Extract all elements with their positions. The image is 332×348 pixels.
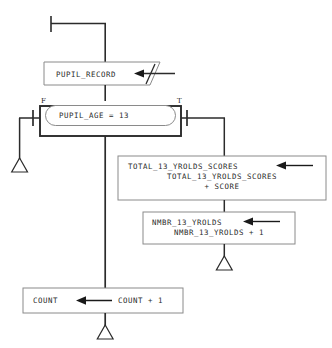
read-pupil-record-label: PUPIL_RECORD	[56, 70, 116, 80]
total-13-yrolds-scores-line-2: TOTAL_13_YROLDS_SCORES	[118, 172, 326, 182]
nmbr-13-yrolds-line-2: NMBR_13_YROLDS + 1	[143, 228, 295, 238]
terminator-true-branch	[216, 256, 232, 270]
decision-pupil-age-label: PUPIL_AGE = 13	[59, 111, 129, 121]
terminator-main-exit	[97, 325, 113, 339]
branch-label-true: T	[177, 97, 182, 105]
total-13-yrolds-scores-line-1: TOTAL_13_YROLDS_SCORES	[128, 162, 238, 172]
edge-true-branch	[181, 110, 225, 156]
edge-false-branch	[19, 110, 40, 164]
branch-label-false: F	[41, 97, 46, 105]
count-expression-label: COUNT + 1	[118, 296, 163, 306]
nmbr-13-yrolds-line-1: NMBR_13_YROLDS	[152, 218, 222, 228]
count-target-label: COUNT	[33, 296, 58, 306]
flowchart-canvas: PUPIL_RECORD PUPIL_AGE = 13 F T TOTAL_13…	[0, 0, 332, 348]
total-13-yrolds-scores-line-3: + SCORE	[118, 182, 326, 192]
entry-bar	[51, 16, 106, 62]
terminator-false-branch	[12, 158, 28, 172]
